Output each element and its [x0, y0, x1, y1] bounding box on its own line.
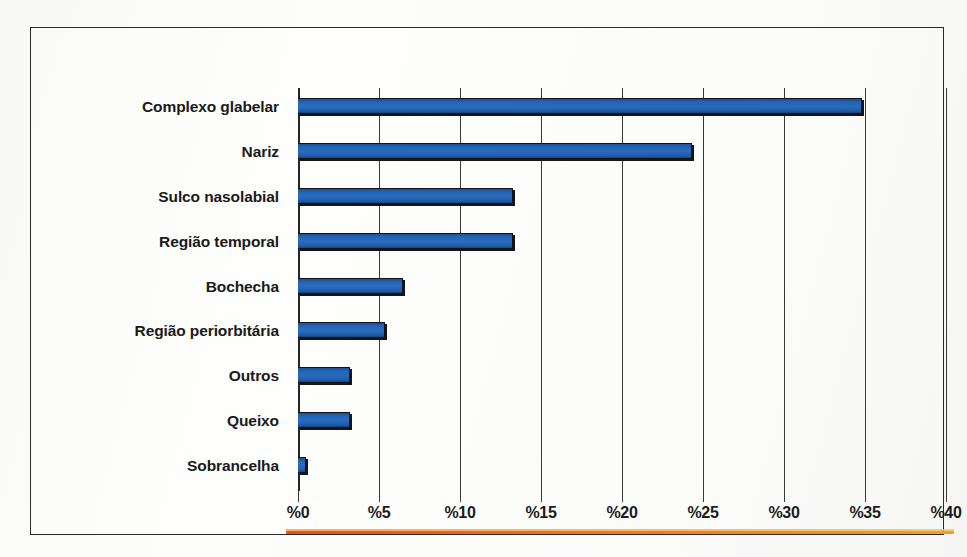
bar-queixo[interactable] [298, 412, 350, 428]
bar-row [298, 278, 946, 294]
tickmark-pct5 [379, 491, 380, 502]
bar-row [298, 367, 946, 383]
bar-row [298, 233, 946, 249]
xtick-label-pct30: %30 [749, 504, 819, 522]
xtick-label-pct0: %0 [263, 504, 333, 522]
accent-rule [286, 531, 954, 534]
category-label-outros: Outros [67, 368, 279, 384]
tickmark-pct10 [460, 491, 461, 502]
value-axis-labels: %0%5%10%15%20%25%30%35%40 [298, 504, 946, 528]
tickmark-pct30 [784, 491, 785, 502]
category-label-queixo: Queixo [67, 413, 279, 429]
category-label-complexo-glabelar: Complexo glabelar [67, 99, 279, 115]
xtick-label-pct10: %10 [425, 504, 495, 522]
chart-frame: Complexo glabelarNarizSulco nasolabialRe… [30, 27, 944, 535]
tickmark-pct25 [703, 491, 704, 502]
bar-regiao-periorbitaria[interactable] [298, 322, 385, 338]
bar-row [298, 188, 946, 204]
bar-nariz[interactable] [298, 143, 692, 159]
tickmark-pct20 [622, 491, 623, 502]
tickmark-pct40 [946, 491, 947, 502]
bar-sobrancelha[interactable] [298, 457, 306, 473]
category-label-bochecha: Bochecha [67, 279, 279, 295]
bar-bochecha[interactable] [298, 278, 403, 294]
bar-row [298, 412, 946, 428]
category-label-regiao-temporal: Região temporal [67, 234, 279, 250]
bar-complexo-glabelar[interactable] [298, 98, 862, 114]
bar-sulco-nasolabial[interactable] [298, 188, 513, 204]
bar-row [298, 457, 946, 473]
category-label-sobrancelha: Sobrancelha [67, 458, 279, 474]
xtick-label-pct40: %40 [911, 504, 967, 522]
category-axis-labels: Complexo glabelarNarizSulco nasolabialRe… [67, 88, 289, 491]
gridline-pct40 [946, 88, 947, 491]
bars-group [298, 88, 946, 491]
xtick-label-pct35: %35 [830, 504, 900, 522]
xtick-label-pct20: %20 [587, 504, 657, 522]
tickmark-pct15 [541, 491, 542, 502]
xtick-label-pct25: %25 [668, 504, 738, 522]
bar-outros[interactable] [298, 367, 350, 383]
bar-row [298, 322, 946, 338]
category-label-regiao-periorbitaria: Região periorbitária [67, 323, 279, 339]
bar-regiao-temporal[interactable] [298, 233, 513, 249]
tickmark-pct35 [865, 491, 866, 502]
category-label-sulco-nasolabial: Sulco nasolabial [67, 189, 279, 205]
xtick-label-pct15: %15 [506, 504, 576, 522]
bar-row [298, 98, 946, 114]
tickmark-pct0 [298, 491, 299, 502]
category-label-nariz: Nariz [67, 144, 279, 160]
plot-area [298, 88, 946, 491]
chart-page: Complexo glabelarNarizSulco nasolabialRe… [0, 0, 967, 557]
xtick-label-pct5: %5 [344, 504, 414, 522]
bar-row [298, 143, 946, 159]
